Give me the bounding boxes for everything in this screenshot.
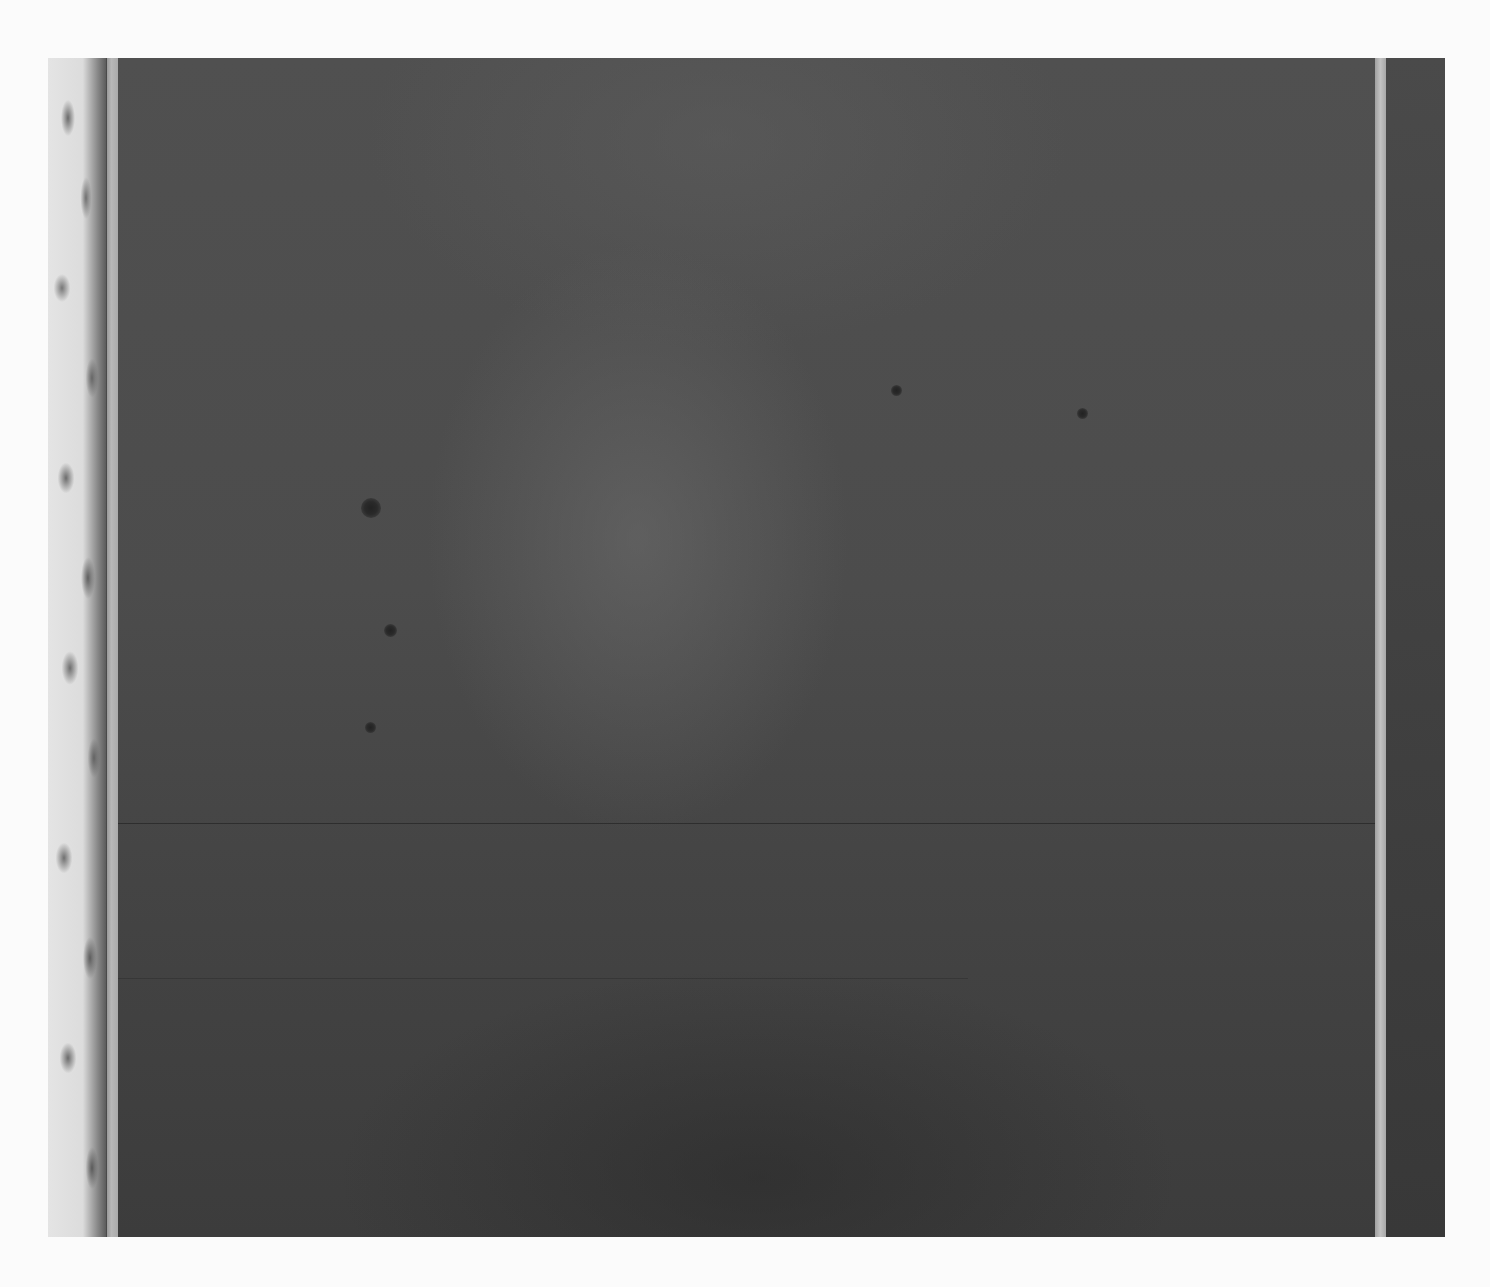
faint-horizontal-line — [118, 978, 968, 979]
dark-spot — [1077, 408, 1088, 419]
textured-left-strip — [48, 58, 106, 1237]
faint-horizontal-line — [118, 823, 1445, 824]
dark-spot — [384, 624, 397, 637]
right-light-stripe — [1375, 58, 1386, 1237]
right-dark-band — [1386, 58, 1445, 1237]
dark-spot — [365, 722, 376, 733]
left-light-stripe — [107, 58, 118, 1237]
dark-spot — [361, 498, 381, 518]
dark-field — [118, 58, 1375, 1237]
photo-scene — [0, 0, 1490, 1287]
dark-spot — [891, 385, 902, 396]
painting-canvas — [48, 58, 1445, 1237]
